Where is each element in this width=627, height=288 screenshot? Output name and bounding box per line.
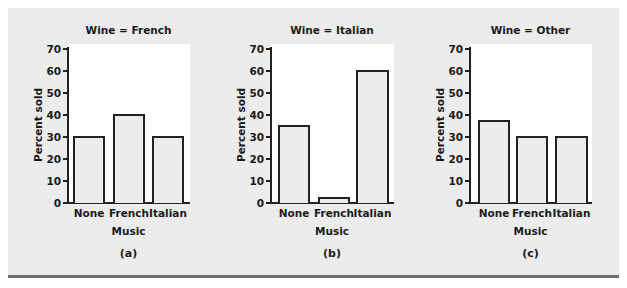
- y-tick-label: 60: [39, 65, 61, 77]
- y-tick-label: 60: [441, 65, 463, 77]
- y-tick: [465, 136, 470, 138]
- y-axis-label: Percent sold: [434, 80, 446, 170]
- y-tick-label: 10: [441, 175, 463, 187]
- y-tick: [465, 180, 470, 182]
- category-label: Italian: [148, 207, 188, 219]
- y-tick: [465, 70, 470, 72]
- y-tick-label: 70: [242, 43, 264, 55]
- y-axis-label: Percent sold: [235, 80, 247, 170]
- y-tick: [465, 158, 470, 160]
- y-tick: [465, 202, 470, 204]
- y-tick-label: 10: [39, 175, 61, 187]
- panel-caption: (a): [109, 247, 149, 260]
- y-tick: [63, 136, 68, 138]
- y-tick-label: 70: [39, 43, 61, 55]
- panel-title: Wine = French: [69, 24, 189, 36]
- y-tick: [465, 48, 470, 50]
- panel-caption: (b): [312, 247, 352, 260]
- category-label: Italian: [552, 207, 592, 219]
- bar-italian: [152, 136, 184, 203]
- y-tick-label: 60: [242, 65, 264, 77]
- y-tick: [63, 202, 68, 204]
- panel-caption: (c): [511, 247, 551, 260]
- y-tick-label: 10: [242, 175, 264, 187]
- y-tick: [63, 158, 68, 160]
- x-axis-label: Music: [292, 225, 372, 237]
- bar-french: [318, 197, 350, 204]
- category-label: Italian: [353, 207, 393, 219]
- category-label: French: [314, 207, 354, 219]
- bar-none: [278, 125, 310, 203]
- bar-italian: [555, 136, 588, 203]
- bar-french: [516, 136, 548, 203]
- y-tick: [465, 92, 470, 94]
- y-tick: [266, 158, 271, 160]
- x-axis-label: Music: [89, 225, 169, 237]
- y-tick: [266, 202, 271, 204]
- y-tick-label: 0: [242, 197, 264, 209]
- y-axis-label: Percent sold: [32, 80, 44, 170]
- y-tick: [266, 70, 271, 72]
- y-tick: [63, 70, 68, 72]
- category-label: French: [109, 207, 149, 219]
- y-tick: [63, 114, 68, 116]
- y-tick-label: 0: [39, 197, 61, 209]
- bar-french: [113, 114, 145, 203]
- bar-none: [478, 120, 510, 204]
- y-tick-label: 70: [441, 43, 463, 55]
- y-tick: [266, 92, 271, 94]
- bottom-rule: [8, 275, 619, 278]
- category-label: None: [274, 207, 314, 219]
- y-tick: [465, 114, 470, 116]
- y-tick-label: 0: [441, 197, 463, 209]
- bar-none: [73, 136, 105, 203]
- y-tick: [63, 48, 68, 50]
- x-axis-label: Music: [491, 225, 571, 237]
- category-label: None: [474, 207, 514, 219]
- panel-title: Wine = Italian: [272, 24, 392, 36]
- category-label: None: [69, 207, 109, 219]
- y-tick: [63, 92, 68, 94]
- y-tick: [266, 136, 271, 138]
- y-tick: [63, 180, 68, 182]
- y-tick: [266, 114, 271, 116]
- panel-title: Wine = Other: [471, 24, 591, 36]
- category-label: French: [512, 207, 552, 219]
- y-tick: [266, 180, 271, 182]
- bar-italian: [356, 70, 389, 203]
- y-tick: [266, 48, 271, 50]
